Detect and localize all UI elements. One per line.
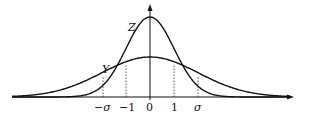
- normal-distribution-diagram: Z Y −σ −1 0 1 σ: [0, 0, 313, 121]
- curve-label-y: Y: [102, 64, 109, 75]
- y-axis-arrow-icon: [148, 4, 153, 11]
- tick-label-zero: 0: [146, 102, 153, 113]
- curve-y: [12, 57, 290, 96]
- tick-label-neg-one: −1: [119, 102, 135, 113]
- tick-label-neg-sigma: −σ: [94, 102, 111, 113]
- tick-label-one: 1: [171, 102, 178, 113]
- diagram-canvas: [0, 0, 313, 121]
- tick-label-sigma: σ: [194, 102, 202, 113]
- curve-label-z: Z: [128, 22, 136, 33]
